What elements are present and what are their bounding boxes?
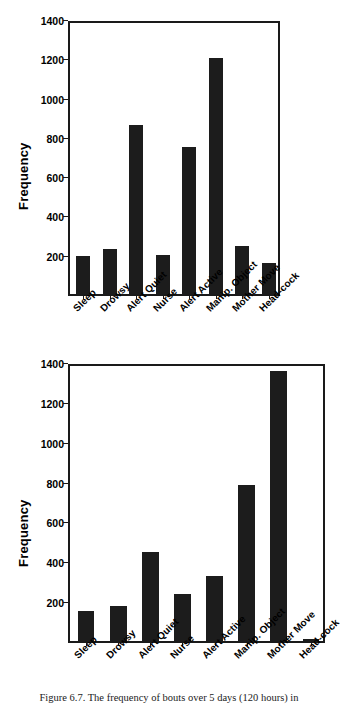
y-axis-tick-labels-top: 200400600800100012001400 bbox=[30, 0, 64, 296]
y-tick-label: 1400 bbox=[41, 16, 64, 26]
bar bbox=[103, 249, 117, 294]
bar bbox=[209, 58, 223, 294]
bar-chart-bottom: Frequency 200400600800100012001400 Sleep… bbox=[0, 352, 338, 690]
y-tick-label: 600 bbox=[46, 518, 64, 528]
y-tick-label: 800 bbox=[46, 479, 64, 489]
y-tick-label: 1400 bbox=[41, 359, 64, 369]
y-tick-label: 1000 bbox=[41, 439, 64, 449]
y-axis-title-bottom: Frequency bbox=[16, 499, 31, 567]
y-tick-label: 800 bbox=[46, 134, 64, 144]
bars-group-bottom bbox=[70, 366, 323, 641]
y-tick-label: 600 bbox=[46, 173, 64, 183]
y-tick-label: 200 bbox=[46, 252, 64, 262]
y-axis-tick-labels-bottom: 200400600800100012001400 bbox=[30, 352, 64, 643]
figure-caption: Figure 6.7. The frequency of bouts over … bbox=[0, 692, 338, 703]
bar bbox=[142, 552, 159, 641]
y-tick-label: 1200 bbox=[41, 55, 64, 65]
bar-chart-top: Frequency 200400600800100012001400 Sleep… bbox=[0, 0, 338, 352]
y-tick-label: 1000 bbox=[41, 95, 64, 105]
bar bbox=[182, 147, 196, 294]
y-tick-label: 1200 bbox=[41, 399, 64, 409]
bars-group-top bbox=[70, 23, 278, 294]
plot-area-bottom bbox=[68, 364, 325, 643]
bar bbox=[129, 125, 143, 294]
y-axis-title-top: Frequency bbox=[16, 142, 31, 210]
y-tick-label: 200 bbox=[46, 598, 64, 608]
bar bbox=[270, 371, 287, 641]
y-tick-label: 400 bbox=[46, 558, 64, 568]
y-tick-label: 400 bbox=[46, 212, 64, 222]
plot-area-top bbox=[68, 21, 280, 296]
